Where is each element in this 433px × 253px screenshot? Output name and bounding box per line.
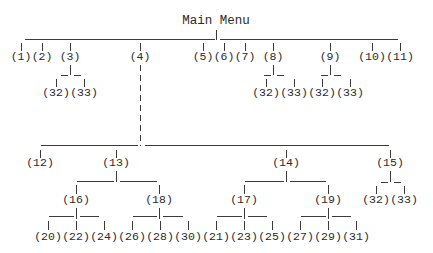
tree-node-n31: (31) xyxy=(342,231,370,243)
tree-node-n29: (29) xyxy=(314,231,342,243)
tree-node-n14: (14) xyxy=(272,157,300,169)
tree-node-n30: (30) xyxy=(174,231,202,243)
tree-node-n19: (19) xyxy=(314,194,342,206)
tree-node-n7: (7) xyxy=(235,51,256,63)
tree-node-n12: (12) xyxy=(26,157,54,169)
tree-node-n24: (24) xyxy=(90,231,118,243)
tree-node-n8b: (33) xyxy=(280,87,308,99)
tree-node-n9a: (32) xyxy=(308,87,336,99)
tree-node-n15b: (33) xyxy=(390,194,418,206)
tree-node-n6: (6) xyxy=(214,51,235,63)
tree-node-n15: (15) xyxy=(376,157,404,169)
tree-node-n28: (28) xyxy=(146,231,174,243)
root-node-title: Main Menu xyxy=(182,15,250,27)
tree-node-n20: (20) xyxy=(34,231,62,243)
tree-node-n16: (16) xyxy=(62,194,90,206)
tree-node-n15a: (32) xyxy=(362,194,390,206)
tree-connectors xyxy=(0,0,433,253)
tree-node-n9: (9) xyxy=(320,51,341,63)
tree-node-n9b: (33) xyxy=(336,87,364,99)
tree-node-n11: (11) xyxy=(386,51,414,63)
tree-node-n5: (5) xyxy=(193,51,214,63)
tree-node-n25: (25) xyxy=(258,231,286,243)
tree-node-n8a: (32) xyxy=(252,87,280,99)
tree-node-n27: (27) xyxy=(286,231,314,243)
tree-node-n4: (4) xyxy=(130,51,151,63)
tree-node-n2: (2) xyxy=(32,51,53,63)
tree-node-n3: (3) xyxy=(60,51,81,63)
tree-node-n23: (23) xyxy=(230,231,258,243)
tree-node-n26: (26) xyxy=(118,231,146,243)
tree-node-n13: (13) xyxy=(102,157,130,169)
tree-node-n18: (18) xyxy=(145,194,173,206)
tree-node-n21: (21) xyxy=(202,231,230,243)
tree-node-n22: (22) xyxy=(62,231,90,243)
tree-node-n10: (10) xyxy=(358,51,386,63)
tree-node-n8: (8) xyxy=(263,51,284,63)
tree-node-n3a: (32) xyxy=(42,87,70,99)
tree-node-n17: (17) xyxy=(230,194,258,206)
tree-node-n3b: (33) xyxy=(70,87,98,99)
menu-tree-diagram: Main Menu(1)(2)(3)(4)(5)(6)(7)(8)(9)(10)… xyxy=(0,0,433,253)
tree-node-n1: (1) xyxy=(11,51,32,63)
